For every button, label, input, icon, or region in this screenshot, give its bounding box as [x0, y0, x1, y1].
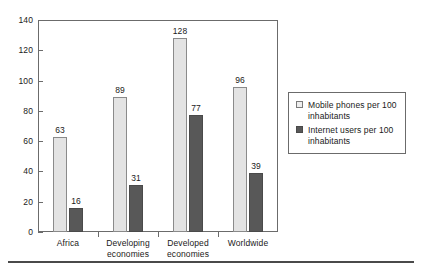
y-axis-tick-label: 140 [19, 16, 33, 25]
x-axis-tick-mark [218, 232, 219, 237]
bar-mobile [233, 87, 247, 232]
legend-label-mobile-phones: Mobile phones per 100 inhabitants [308, 100, 399, 121]
y-axis-tick-mark [38, 232, 43, 233]
bar-value-label: 63 [55, 126, 65, 135]
legend-label-internet-users: Internet users per 100 inhabitants [308, 125, 399, 146]
legend-swatch-mobile-phones-icon [296, 101, 303, 108]
y-axis-tick-label: 40 [23, 167, 33, 176]
bar-internet [129, 185, 143, 232]
y-axis-tick-label: 60 [23, 137, 33, 146]
y-axis-tick-label: 120 [19, 46, 33, 55]
x-axis-tick-mark [98, 232, 99, 237]
y-axis-tick-label: 20 [23, 197, 33, 206]
bar-value-label: 128 [173, 27, 187, 36]
bar-internet [69, 208, 83, 232]
bar-internet [189, 115, 203, 232]
bar-mobile [173, 38, 187, 232]
chart-legend: Mobile phones per 100 inhabitants Intern… [288, 92, 406, 154]
bar-mobile [113, 97, 127, 232]
bar-value-label: 96 [235, 76, 245, 85]
legend-swatch-internet-users-icon [296, 126, 303, 133]
y-axis-tick-label: 80 [23, 107, 33, 116]
x-axis-category-label: Worldwide [218, 238, 278, 249]
legend-item-internet-users: Internet users per 100 inhabitants [296, 125, 399, 146]
bar-chart-figure: 020406080100120140 63168931128779639 Afr… [0, 0, 422, 272]
x-axis-tick-mark [158, 232, 159, 237]
bar-value-label: 16 [71, 197, 81, 206]
footer-divider [8, 261, 414, 263]
bars-layer: 63168931128779639 [38, 20, 278, 232]
bar-value-label: 31 [131, 174, 141, 183]
y-axis-tick-label: 0 [28, 228, 33, 237]
bar-internet [249, 173, 263, 232]
bar-value-label: 89 [115, 86, 125, 95]
bar-value-label: 39 [251, 162, 261, 171]
y-axis-tick-label: 100 [19, 76, 33, 85]
legend-item-mobile-phones: Mobile phones per 100 inhabitants [296, 100, 399, 121]
x-axis-category-label: Africa [38, 238, 98, 249]
x-axis-category-label: Developed economies [158, 238, 218, 259]
bar-value-label: 77 [191, 104, 201, 113]
bar-mobile [53, 137, 67, 232]
y-axis: 020406080100120140 [0, 20, 33, 232]
x-axis-category-label: Developing economies [98, 238, 158, 259]
